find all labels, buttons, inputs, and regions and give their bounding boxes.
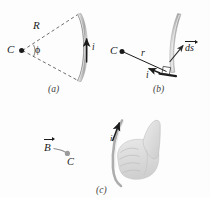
panel-tag-a: (a) [48,85,59,95]
wire-conductor-band-b [170,14,181,73]
label-center-c-c: C [67,157,74,168]
panel-tag-b: (b) [153,85,164,95]
label-radius-r: R [33,20,40,31]
panel-c-graphics [54,120,161,186]
figure-vector-layer [0,0,210,198]
panel-tag-c: (c) [96,186,107,196]
physics-figure: C R ϕ i (a) C r i ds (b) B C i (c) [0,0,210,198]
label-distance-r: r [141,48,145,58]
radius-line-upper [23,15,78,51]
panel-a-graphics [19,13,87,81]
field-pointer-curve [54,149,67,154]
label-element-ds: ds [185,43,194,53]
label-current-i-b: i [146,71,149,81]
center-point-dot-b [120,49,125,54]
radius-line-lower [23,51,78,81]
label-angle-phi: ϕ [35,45,40,55]
label-current-i-c: i [110,134,113,143]
label-field-b: B [44,142,51,153]
center-point-dot-a [19,48,24,53]
label-current-i-a: i [92,43,95,53]
current-arrow-shaft-b [149,68,160,73]
label-center-c-b: C [110,45,117,56]
ds-vector-arrowhead [195,40,198,44]
right-hand-illustration [118,120,161,179]
b-vector-arrowhead [52,137,55,141]
label-center-c-a: C [7,44,14,55]
panel-b-graphics [120,14,184,77]
distance-vector-r [124,52,167,72]
